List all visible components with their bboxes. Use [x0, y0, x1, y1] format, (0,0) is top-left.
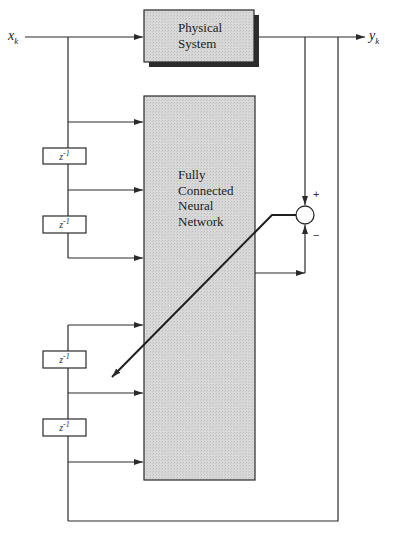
delay-1-exp: -1: [63, 149, 70, 158]
delay-label-2: z-1: [43, 217, 86, 230]
nn-label-line4: Network: [178, 214, 234, 230]
nn-label-line3: Neural: [178, 198, 234, 214]
delay-2-exp: -1: [63, 217, 70, 226]
delay-3-exp: -1: [63, 352, 70, 361]
summer-minus-sign: −: [313, 229, 319, 241]
delay-label-1: z-1: [43, 149, 86, 162]
diagram-canvas: [0, 0, 398, 537]
delay-4-exp: -1: [63, 420, 70, 429]
physical-system-line2: System: [178, 36, 222, 52]
neural-network-label: Fully Connected Neural Network: [178, 167, 234, 229]
nn-label-line2: Connected: [178, 183, 234, 199]
delay-label-3: z-1: [43, 352, 86, 365]
output-label: yk: [369, 28, 379, 46]
summer-plus-sign: +: [313, 188, 319, 200]
nn-label-line1: Fully: [178, 167, 234, 183]
output-label-subscript: k: [375, 36, 379, 46]
physical-system-line1: Physical: [178, 20, 222, 36]
input-label-subscript: k: [14, 36, 18, 46]
input-label: xk: [8, 28, 18, 46]
summing-junction: [296, 206, 314, 224]
physical-system-label: Physical System: [178, 20, 222, 52]
delay-label-4: z-1: [43, 420, 86, 433]
